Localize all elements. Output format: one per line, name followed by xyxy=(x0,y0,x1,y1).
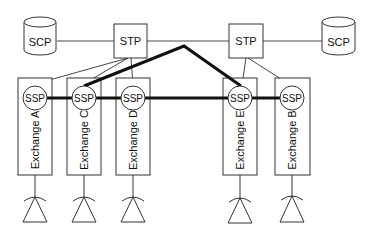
ssp-b: SSP xyxy=(280,86,304,110)
antenna-icon xyxy=(121,175,145,222)
exchange-boxes xyxy=(18,78,310,175)
scp-left: SCP xyxy=(24,17,56,55)
stp-left-label: STP xyxy=(120,35,141,47)
scp-right: SCP xyxy=(322,17,355,55)
exchange-e-label: Exchange E xyxy=(234,110,246,169)
stp-right-label: STP xyxy=(235,35,256,47)
exchange-a-label: Exchange A xyxy=(29,110,41,169)
ssp-d-label: SSP xyxy=(123,93,143,104)
exchange-c-label: Exchange C xyxy=(78,110,90,170)
ssp-a-label: SSP xyxy=(25,93,45,104)
scp-right-label: SCP xyxy=(327,36,350,48)
ssp-e: SSP xyxy=(228,86,252,110)
ssp-e-label: SSP xyxy=(230,93,250,104)
trunk-c-e xyxy=(84,46,241,86)
ssp-a: SSP xyxy=(23,86,47,110)
antennas xyxy=(23,175,304,223)
exchange-b-label: Exchange B xyxy=(286,110,298,169)
antenna-icon xyxy=(72,175,96,222)
scp-left-label: SCP xyxy=(29,36,52,48)
stp-left: STP xyxy=(114,24,147,58)
ssp-c: SSP xyxy=(72,86,96,110)
antenna-icon xyxy=(228,175,252,223)
signaling-network-diagram: SCP SCP STP STP SSP SSP SSP SSP xyxy=(0,0,372,240)
exchange-d-label: Exchange D xyxy=(127,110,139,170)
ssp-c-label: SSP xyxy=(74,93,94,104)
stp-right: STP xyxy=(229,24,263,58)
antenna-icon xyxy=(280,175,304,222)
ssp-b-label: SSP xyxy=(282,93,302,104)
ssp-d: SSP xyxy=(121,86,145,110)
antenna-icon xyxy=(23,175,47,222)
